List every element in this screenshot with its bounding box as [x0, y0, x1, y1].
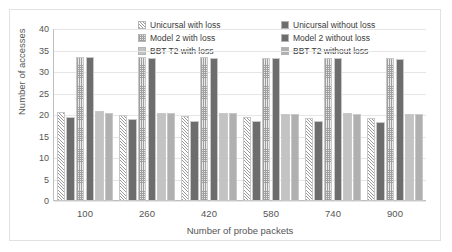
- chart-container: Unicursal with loss Unicursal without lo…: [9, 9, 441, 241]
- bar[interactable]: [105, 113, 114, 201]
- bar[interactable]: [405, 114, 414, 201]
- bar[interactable]: [229, 113, 238, 201]
- bar[interactable]: [291, 114, 300, 201]
- bar[interactable]: [86, 57, 95, 201]
- x-axis-tick-label: 260: [116, 208, 178, 219]
- x-axis-tick-label: 580: [240, 208, 302, 219]
- bar[interactable]: [138, 57, 147, 201]
- bar[interactable]: [252, 121, 261, 201]
- legend-item-label: Unicursal without loss: [293, 20, 375, 30]
- bar[interactable]: [57, 112, 66, 201]
- bar[interactable]: [219, 113, 228, 201]
- bar[interactable]: [334, 58, 343, 201]
- bar[interactable]: [396, 59, 405, 201]
- y-axis-tick-label: 35: [39, 46, 49, 56]
- bar[interactable]: [353, 114, 362, 201]
- y-axis-tick-label: 20: [39, 110, 49, 120]
- y-axis-title: Number of accesses: [16, 28, 27, 115]
- y-axis-tick-label: 40: [39, 24, 49, 34]
- bar[interactable]: [324, 58, 333, 201]
- bar[interactable]: [167, 113, 176, 201]
- legend-item-label: Unicursal with loss: [150, 20, 220, 30]
- bar-group: 580: [240, 29, 302, 201]
- plot-area: 0510152025303540 100260420580740900: [54, 29, 426, 201]
- bar[interactable]: [281, 114, 290, 201]
- bar[interactable]: [305, 118, 314, 201]
- bar[interactable]: [376, 122, 385, 201]
- bar-group: 740: [302, 29, 364, 201]
- legend-swatch-icon: [138, 21, 146, 29]
- y-axis-tick-label: 25: [39, 89, 49, 99]
- bar[interactable]: [181, 116, 190, 201]
- bar[interactable]: [415, 114, 424, 201]
- bar[interactable]: [386, 58, 395, 201]
- bar[interactable]: [243, 117, 252, 201]
- y-axis-tick-label: 5: [44, 175, 49, 185]
- bar[interactable]: [95, 111, 104, 201]
- bar-group: 420: [178, 29, 240, 201]
- bar[interactable]: [367, 118, 376, 201]
- bar[interactable]: [148, 58, 157, 201]
- bar[interactable]: [66, 117, 75, 201]
- bar[interactable]: [76, 57, 85, 201]
- bar[interactable]: [119, 115, 128, 201]
- bar-group: 900: [364, 29, 426, 201]
- bar[interactable]: [343, 113, 352, 201]
- y-axis-tick-label: 15: [39, 132, 49, 142]
- x-axis-tick-label: 900: [364, 208, 426, 219]
- x-axis-title: Number of probe packets: [54, 225, 426, 236]
- bar-group: 260: [116, 29, 178, 201]
- y-axis-tick-label: 0: [44, 196, 49, 206]
- bar-group: 100: [54, 29, 116, 201]
- bar[interactable]: [190, 121, 199, 201]
- bar[interactable]: [210, 58, 219, 201]
- legend-swatch-icon: [281, 21, 289, 29]
- bar[interactable]: [157, 113, 166, 201]
- bar[interactable]: [200, 57, 209, 201]
- x-axis-tick-label: 420: [178, 208, 240, 219]
- bar[interactable]: [272, 58, 281, 201]
- bar[interactable]: [262, 58, 271, 201]
- x-axis-tick-label: 100: [54, 208, 116, 219]
- x-axis-tick-label: 740: [302, 208, 364, 219]
- y-axis-tick-label: 10: [39, 153, 49, 163]
- bar[interactable]: [314, 121, 323, 201]
- bar[interactable]: [128, 119, 137, 201]
- bar-groups: 100260420580740900: [54, 29, 426, 201]
- y-axis-tick-label: 30: [39, 67, 49, 77]
- gridline: [54, 201, 426, 202]
